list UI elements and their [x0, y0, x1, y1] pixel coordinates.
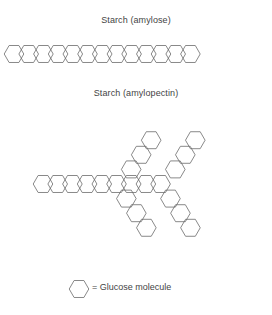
glucose-hexagon	[63, 176, 83, 193]
glucose-hexagon	[166, 46, 186, 63]
amylose-caption: Starch (amylose)	[0, 15, 272, 25]
glucose-hexagon	[136, 176, 156, 193]
legend-label: = Glucose molecule	[92, 282, 171, 292]
amylose-chain	[0, 34, 272, 74]
glucose-hexagon	[107, 46, 127, 63]
glucose-hexagon	[48, 176, 68, 193]
glucose-hexagon	[4, 46, 24, 63]
glucose-hexagon	[92, 176, 112, 193]
glucose-hexagon	[181, 46, 201, 63]
glucose-hexagon	[48, 46, 68, 63]
glucose-hexagon	[78, 46, 98, 63]
glucose-hexagon	[92, 46, 112, 63]
glucose-hexagon	[122, 46, 142, 63]
amylopectin-structure	[0, 105, 272, 265]
glucose-hexagon	[77, 176, 97, 193]
glucose-hexagon	[63, 46, 83, 63]
glucose-hexagon	[33, 176, 53, 193]
amylopectin-caption: Starch (amylopectin)	[0, 88, 272, 98]
legend-glucose-hexagon	[69, 281, 89, 298]
starch-structure-diagram: Starch (amylose) Starch (amylopectin) = …	[0, 0, 272, 315]
glucose-hexagon	[151, 46, 171, 63]
glucose-hexagon	[19, 46, 39, 63]
glucose-hexagon	[34, 46, 54, 63]
legend-hexagon-icon	[62, 275, 96, 303]
glucose-hexagon	[137, 46, 157, 63]
